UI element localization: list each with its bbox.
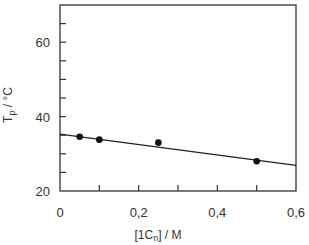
plot-frame (60, 5, 296, 191)
y-tick-label: 60 (36, 35, 50, 50)
data-point (155, 139, 162, 146)
data-point (253, 158, 260, 165)
data-point (96, 136, 103, 143)
y-tick-label: 20 (36, 184, 50, 199)
x-tick-label: 0,2 (130, 205, 148, 220)
data-point (76, 133, 83, 140)
y-tick-label: 40 (36, 110, 50, 125)
y-axis-title: Tp / °C (1, 87, 17, 123)
fit-line (60, 134, 296, 165)
x-tick-label: 0,6 (287, 205, 305, 220)
x-axis-ticks: 00,20,40,6 (56, 185, 305, 220)
x-tick-label: 0,4 (208, 205, 226, 220)
x-tick-label: 0 (56, 205, 63, 220)
x-axis-title: [1Cn] / M (134, 228, 181, 243)
chart: 204060 00,20,40,6 Tp / °C [1Cn] / M (0, 0, 309, 245)
y-axis-ticks: 204060 (36, 24, 66, 199)
